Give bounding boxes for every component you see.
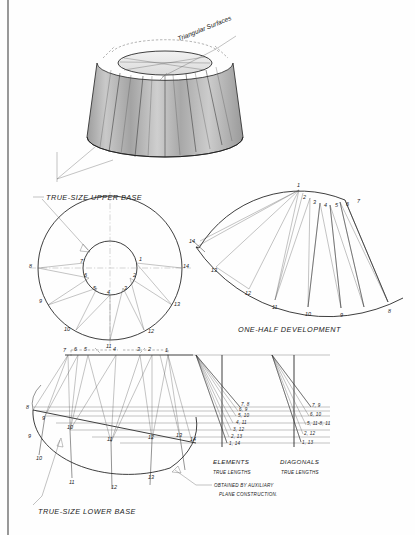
upper-base-outer-label-8: 8 xyxy=(29,263,32,269)
upper-base-outer-label-14: 14 xyxy=(183,263,189,269)
true-size-upper-base-figure: TRUE-SIZE UPPER BASE 1 2 3 4 5 6 7 8 9 1… xyxy=(29,192,191,349)
one-half-development-figure: 1 2 3 4 5 6 7 14 13 12 11 10 9 8 ONE-HAL… xyxy=(189,182,403,334)
upper-base-inner-label-3: 3 xyxy=(124,285,127,291)
lower-base-chord xyxy=(33,410,196,443)
note-arrow xyxy=(172,466,181,473)
diagonals-true-lengths-figure: 7, 9 6, 10 5, 11-8, 11 2, 12 1, 13 DIAGO… xyxy=(272,355,331,475)
lower-base-top-label-2: 2 xyxy=(147,346,151,352)
upper-base-inner-label-2: 2 xyxy=(132,272,136,278)
pictorial-figure xyxy=(57,36,243,182)
upper-base-caption: TRUE-SIZE UPPER BASE xyxy=(46,193,142,202)
lower-base-outline-label-9: 9 xyxy=(28,433,31,439)
upper-base-inner-label-1: 1 xyxy=(139,256,142,262)
upper-base-caption-arrow xyxy=(80,244,90,252)
cone-lower-construction xyxy=(57,147,113,182)
elements-label-5-10: 5, 10 xyxy=(238,413,249,418)
development-outer-label-8: 8 xyxy=(388,308,391,314)
lower-base-arc-label-13: 13 xyxy=(176,432,182,438)
development-outer-arc xyxy=(196,247,403,317)
development-inner-label-1: 1 xyxy=(297,182,300,188)
diagonals-label-5-11: 5, 11-8, 11 xyxy=(307,421,331,426)
lower-base-arc-label-8: 8 xyxy=(26,404,29,410)
upper-base-outer-label-10: 10 xyxy=(64,326,70,332)
development-outer-label-11: 11 xyxy=(272,304,278,310)
diagonals-label-1-13: 1, 13 xyxy=(302,440,313,445)
lower-base-outline-label-10: 10 xyxy=(36,455,42,461)
development-inner-label-5: 5 xyxy=(335,202,339,208)
diagonals-true-length-lines xyxy=(272,355,311,442)
upper-base-inner-label-4: 4 xyxy=(107,289,110,295)
lower-base-top-label-5: 5 xyxy=(84,346,88,352)
drawing-sheet: Triangular Surfaces xyxy=(0,0,415,535)
elements-label-3-12: 3, 12 xyxy=(233,427,244,432)
cone-upper-phantom-arc xyxy=(112,40,219,52)
lower-base-arc-upper-left xyxy=(32,385,41,410)
development-caption: ONE-HALF DEVELOPMENT xyxy=(238,325,341,334)
development-fold-lines xyxy=(308,202,364,308)
cone-tick-right xyxy=(215,46,228,58)
elements-caption-line-1: ELEMENTS xyxy=(213,458,250,465)
elements-label-1-14: 1, 14 xyxy=(229,441,240,446)
upper-base-inner-label-5: 5 xyxy=(93,285,97,291)
development-outer-label-13: 13 xyxy=(211,267,217,273)
lower-base-caption-leader xyxy=(33,440,60,505)
development-inner-label-2: 2 xyxy=(302,194,306,200)
lower-base-outline-label-12: 12 xyxy=(111,484,117,490)
lower-base-arc-label-11: 11 xyxy=(107,436,113,442)
upper-base-outer-label-13: 13 xyxy=(174,301,180,307)
diagonals-label-2-12: 2, 12 xyxy=(303,431,315,436)
lower-base-outline-label-13: 13 xyxy=(148,474,154,480)
upper-base-outer-label-12: 12 xyxy=(148,328,154,334)
diagonals-label-6-10: 6, 10 xyxy=(310,412,321,417)
development-outer-label-12: 12 xyxy=(245,290,251,296)
note-line-1: OBTAINED BY AUXILIARY xyxy=(214,483,274,488)
diagonals-label-7-9: 7, 9 xyxy=(312,403,321,408)
lower-base-arc-label-14: 14 xyxy=(190,436,196,442)
lower-base-arc-label-12: 12 xyxy=(148,434,154,440)
development-triangulation xyxy=(196,190,388,308)
lower-base-caption-arrow xyxy=(57,438,63,447)
lower-base-top-label-3: 3 xyxy=(137,346,140,352)
elements-caption-line-2: TRUE LENGTHS xyxy=(213,470,252,475)
upper-base-caption-leader xyxy=(42,199,88,250)
upper-base-outer-label-11: 11 xyxy=(106,343,112,349)
lower-base-outline-label-11: 11 xyxy=(69,479,75,485)
diagonals-caption-line-2: TRUE LENGTHS xyxy=(281,470,320,475)
elements-label-4-11: 4, 11 xyxy=(236,420,247,425)
callout-line-1: Triangular Surfaces xyxy=(177,14,234,43)
development-outer-label-10: 10 xyxy=(305,311,311,317)
note-line-2: PLANE CONSTRUCTION. xyxy=(219,492,277,497)
upper-base-outer-label-9: 9 xyxy=(39,298,42,304)
lower-base-arc-label-10: 10 xyxy=(67,424,73,430)
cone-tick-left xyxy=(103,46,115,58)
elements-label-2-13: 2, 13 xyxy=(230,434,242,439)
lower-base-top-label-4: 4 xyxy=(113,346,116,352)
lower-base-top-label-6: 6 xyxy=(74,346,77,352)
development-inner-label-6: 6 xyxy=(346,201,349,207)
lower-base-arc-label-9: 9 xyxy=(42,415,45,421)
diagonals-caption-line-1: DIAGONALS xyxy=(280,458,320,465)
triangular-surfaces-callout: Triangular Surfaces xyxy=(177,14,234,43)
lower-base-triangulation xyxy=(33,355,192,442)
development-inner-label-3: 3 xyxy=(313,199,316,205)
development-inner-label-4: 4 xyxy=(324,202,327,208)
diagonals-true-length-bold xyxy=(272,355,311,442)
development-outer-label-9: 9 xyxy=(340,312,343,318)
elements-true-lengths-figure: 7, 8 6, 9 5, 10 4, 11 3, 12 2, 13 1, 14 … xyxy=(196,355,252,475)
lower-base-top-label-7: 7 xyxy=(63,347,67,353)
technical-drawing-canvas: Triangular Surfaces xyxy=(0,0,415,535)
development-inner-label-7: 7 xyxy=(357,198,361,204)
development-inner-arc xyxy=(199,191,345,248)
lower-base-arc xyxy=(33,410,197,474)
upper-base-inner-label-6: 6 xyxy=(84,272,87,278)
lower-base-top-label-1: 1 xyxy=(165,347,168,353)
development-outer-label-14: 14 xyxy=(189,238,195,244)
lower-base-caption: TRUE-SIZE LOWER BASE xyxy=(38,507,136,516)
elements-label-6-9: 6, 9 xyxy=(239,407,248,412)
